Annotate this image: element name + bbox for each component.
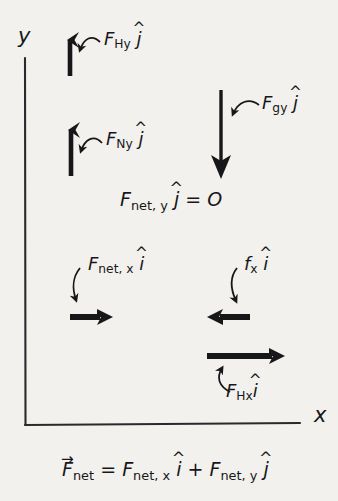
force-label-f-hy: FHy ^j	[104, 30, 142, 51]
unit-vector-j-hat: ^j	[263, 460, 268, 479]
plus-sign: +	[187, 458, 203, 480]
force-symbol: F	[262, 92, 272, 113]
unit-vector-i-hat: ^i	[139, 255, 144, 273]
force-subscript: Ny	[116, 137, 132, 151]
unit-vector-i-hat: ^i	[253, 382, 258, 400]
force-label-f-net-x: Fnet, x ^i	[88, 255, 144, 276]
force-symbol: F	[88, 253, 98, 274]
force-subscript: Hy	[114, 37, 130, 51]
equals-sign: =	[100, 458, 116, 480]
y-axis	[25, 58, 26, 425]
y-axis-label: y	[18, 26, 30, 47]
force-symbol: F	[226, 380, 236, 401]
unit-vector-i-hat: ^i	[263, 255, 268, 273]
unit-vector-j-hat: ^j	[293, 94, 298, 112]
physics-diagram-canvas: y x FHy ^j FNy ^j Fgy ^j Fnet, x ^i fx ^…	[0, 0, 338, 501]
equals-sign: =	[185, 188, 201, 210]
force-subscript: net, x	[98, 262, 133, 276]
force-label-f-gy: Fgy ^j	[262, 94, 298, 115]
term1-subscript: net, x	[133, 468, 170, 483]
equation-y-equilibrium: Fnet, y ^j = O	[120, 190, 222, 213]
force-symbol: F	[104, 28, 114, 49]
unit-vector-i-hat: ^i	[176, 460, 181, 479]
force-subscript: x	[250, 262, 257, 276]
term1-symbol: F	[122, 458, 133, 480]
equation-net-force: →Fnet = Fnet, x ^i + Fnet, y ^j	[62, 460, 269, 483]
unit-vector-j-hat: ^j	[137, 30, 142, 48]
leader-f-gy	[233, 101, 259, 114]
x-axis	[25, 423, 300, 425]
force-subscript: gy	[272, 101, 287, 115]
force-label-f-x: fx ^i	[244, 255, 268, 276]
x-axis-label: x	[314, 405, 326, 426]
force-subscript: Hx	[236, 389, 252, 403]
unit-vector-j-hat: ^j	[174, 190, 179, 209]
equation-subscript: net	[73, 468, 94, 483]
leader-f-hy	[80, 38, 100, 50]
vector-arrow-accent: →F	[62, 460, 73, 479]
leader-f-net-x	[73, 268, 80, 300]
equation-symbol: F	[120, 188, 131, 210]
leader-f-x	[232, 268, 237, 301]
diagram-vectors-layer	[0, 0, 338, 501]
force-label-f-hx: FHx^i	[226, 382, 258, 403]
arrow-f-gy	[211, 90, 231, 179]
equation-subscript: net, y	[131, 198, 168, 213]
leader-f-ny	[81, 138, 102, 151]
equation-value: O	[207, 188, 222, 210]
unit-vector-j-hat: ^j	[139, 130, 144, 148]
force-symbol: F	[106, 128, 116, 149]
force-label-f-ny: FNy ^j	[106, 130, 144, 151]
term2-subscript: net, y	[220, 468, 257, 483]
term2-symbol: F	[209, 458, 220, 480]
